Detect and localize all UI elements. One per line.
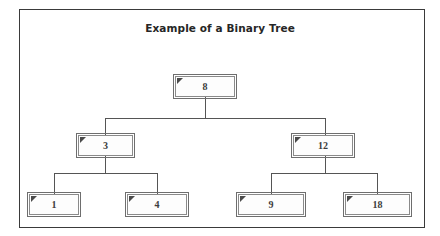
tree-node-8[interactable]: 8: [175, 76, 235, 97]
corner-notch-icon: [177, 78, 183, 84]
corner-notch-icon: [129, 196, 135, 202]
binary-tree-diagram: Example of a Binary Tree 8 3: [0, 0, 440, 236]
tree-node-value: 8: [203, 82, 208, 92]
corner-notch-icon: [295, 137, 301, 143]
tree-node-18[interactable]: 18: [345, 194, 410, 215]
tree-node-value: 3: [103, 141, 108, 151]
tree-node-1[interactable]: 1: [29, 194, 79, 215]
tree-node-4[interactable]: 4: [127, 194, 187, 215]
tree-node-value: 12: [318, 141, 328, 151]
corner-notch-icon: [240, 196, 246, 202]
corner-notch-icon: [347, 196, 353, 202]
corner-notch-icon: [31, 196, 37, 202]
tree-node-value: 4: [155, 200, 160, 210]
corner-notch-icon: [80, 137, 86, 143]
tree-node-9[interactable]: 9: [238, 194, 304, 215]
tree-node-12[interactable]: 12: [293, 135, 353, 156]
tree-node-value: 1: [52, 200, 57, 210]
tree-node-value: 18: [373, 200, 383, 210]
tree-node-3[interactable]: 3: [78, 135, 133, 156]
tree-node-value: 9: [269, 200, 274, 210]
